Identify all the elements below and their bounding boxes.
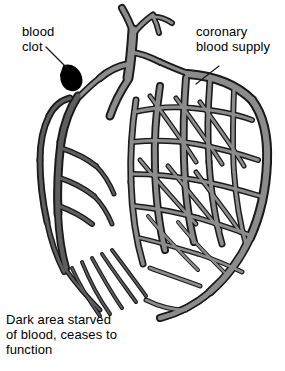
label-coronary-blood-supply: coronary blood supply — [196, 24, 270, 54]
label-dark-area-starved: Dark area starved of blood, ceases to fu… — [6, 312, 117, 357]
label-blood-clot: blood clot — [22, 24, 54, 54]
diagram-canvas: .v{fill:none;stroke-linecap:round;stroke… — [0, 0, 285, 371]
vessel-network — [40, 8, 267, 318]
blood-clot-marker — [61, 66, 81, 91]
healthy-vessels — [80, 8, 267, 318]
